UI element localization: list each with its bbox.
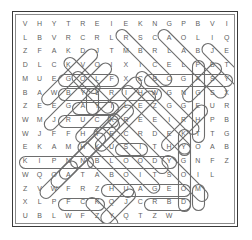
grid-cell[interactable]: V [76,58,90,72]
grid-cell[interactable]: N [76,154,90,168]
grid-cell[interactable] [219,209,233,223]
grid-cell[interactable]: L [119,99,133,113]
grid-cell[interactable]: G [148,182,162,196]
grid-cell[interactable]: R [90,31,104,45]
grid-cell[interactable]: V [32,182,46,196]
grid-cell[interactable]: B [219,113,233,127]
grid-cell[interactable]: K [18,154,32,168]
grid-cell[interactable]: L [176,58,190,72]
grid-cell[interactable]: M [61,140,75,154]
grid-cell[interactable]: I [119,86,133,100]
grid-cell[interactable]: O [133,154,147,168]
grid-cell[interactable]: Y [162,154,176,168]
grid-cell[interactable]: L [90,86,104,100]
grid-cell[interactable]: B [32,209,46,223]
grid-cell[interactable]: I [219,17,233,31]
grid-cell[interactable]: N [148,17,162,31]
grid-cell[interactable]: P [47,154,61,168]
grid-cell[interactable]: A [205,140,219,154]
grid-cell[interactable] [205,182,219,196]
grid-cell[interactable]: S [205,72,219,86]
grid-cell[interactable]: E [104,127,118,141]
grid-cell[interactable]: E [133,99,147,113]
grid-cell[interactable]: S [133,31,147,45]
grid-cell[interactable]: R [61,113,75,127]
grid-cell[interactable]: A [76,99,90,113]
grid-cell[interactable]: Z [18,99,32,113]
grid-cell[interactable]: G [219,127,233,141]
grid-cell[interactable]: O [47,168,61,182]
grid-cell[interactable]: Z [90,209,104,223]
grid-cell[interactable]: G [162,99,176,113]
grid-cell[interactable]: C [90,113,104,127]
grid-cell[interactable]: I [104,17,118,31]
grid-cell[interactable]: L [162,44,176,58]
grid-cell[interactable]: M [191,182,205,196]
grid-cell[interactable]: R [148,195,162,209]
grid-cell[interactable]: W [18,113,32,127]
grid-cell[interactable]: I [104,99,118,113]
grid-cell[interactable]: P [176,17,190,31]
grid-cell[interactable]: B [191,17,205,31]
grid-cell[interactable] [205,195,219,209]
grid-cell[interactable]: E [191,99,205,113]
grid-cell[interactable]: T [205,127,219,141]
grid-cell[interactable]: L [18,31,32,45]
grid-cell[interactable]: K [90,140,104,154]
grid-cell[interactable] [205,209,219,223]
grid-cell[interactable]: E [133,113,147,127]
grid-cell[interactable]: D [148,154,162,168]
grid-cell[interactable]: M [119,44,133,58]
grid-cell[interactable]: J [47,113,61,127]
grid-cell[interactable]: G [162,86,176,100]
grid-cell[interactable]: L [205,168,219,182]
grid-cell[interactable]: Z [18,182,32,196]
grid-cell[interactable]: G [162,17,176,31]
grid-cell[interactable]: V [205,17,219,31]
grid-cell[interactable]: F [61,195,75,209]
grid-cell[interactable]: A [133,182,147,196]
grid-cell[interactable]: O [90,58,104,72]
grid-cell[interactable]: L [32,58,46,72]
grid-cell[interactable] [191,195,205,209]
grid-cell[interactable]: P [47,195,61,209]
grid-cell[interactable]: Y [76,86,90,100]
grid-cell[interactable]: E [219,44,233,58]
grid-cell[interactable]: S [205,86,219,100]
grid-cell[interactable]: A [61,168,75,182]
grid-cell[interactable]: K [104,113,118,127]
grid-cell[interactable]: I [205,31,219,45]
grid-cell[interactable]: D [76,44,90,58]
grid-cell[interactable]: D [176,195,190,209]
grid-cell[interactable]: E [162,182,176,196]
grid-cell[interactable]: Y [219,72,233,86]
grid-cell[interactable]: L [90,72,104,86]
grid-cell[interactable]: L [47,209,61,223]
grid-cell[interactable]: F [104,72,118,86]
grid-cell[interactable]: I [133,140,147,154]
grid-cell[interactable]: U [18,209,32,223]
grid-cell[interactable]: N [176,86,190,100]
grid-cell[interactable]: T [148,140,162,154]
grid-cell[interactable] [219,182,233,196]
grid-cell[interactable]: W [162,209,176,223]
grid-cell[interactable]: B [90,154,104,168]
grid-cell[interactable]: G [176,154,190,168]
grid-cell[interactable]: F [32,44,46,58]
grid-cell[interactable]: I [133,58,147,72]
grid-cell[interactable]: K [133,17,147,31]
grid-cell[interactable]: O [176,168,190,182]
grid-cell[interactable]: M [18,72,32,86]
grid-cell[interactable]: A [162,31,176,45]
grid-cell[interactable]: F [61,182,75,196]
grid-cell[interactable]: W [61,209,75,223]
grid-cell[interactable]: R [133,127,147,141]
grid-cell[interactable]: R [61,31,75,45]
grid-cell[interactable]: V [18,17,32,31]
grid-cell[interactable]: Z [148,99,162,113]
grid-cell[interactable]: O [76,72,90,86]
grid-cell[interactable]: I [133,168,147,182]
grid-cell[interactable]: H [76,140,90,154]
grid-cell[interactable]: T [133,209,147,223]
grid-cell[interactable]: T [191,127,205,141]
